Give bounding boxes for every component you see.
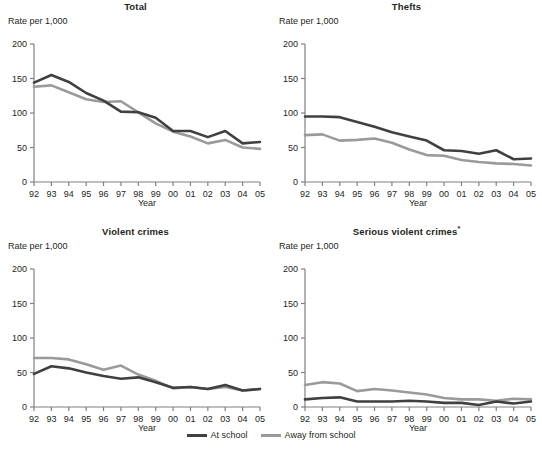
y-tick-label: 100 — [283, 108, 298, 118]
x-axis-label: Year — [34, 198, 260, 208]
series-line-away-from-school — [34, 85, 260, 148]
y-tick-label: 100 — [12, 333, 27, 343]
y-tick-label: 50 — [17, 368, 27, 378]
y-tick-label: 100 — [283, 333, 298, 343]
legend-label-away-from-school: Away from school — [285, 430, 356, 440]
x-axis-label: Year — [305, 198, 531, 208]
y-tick-label: 200 — [12, 39, 27, 49]
legend-label-at-school: At school — [211, 430, 248, 440]
panel-serious-violent-crimes: Serious violent crimes* Rate per 1,000 0… — [271, 225, 542, 447]
plot-area: 0501001502009293949596979899000102030405 — [271, 0, 542, 222]
panel-thefts: Thefts Rate per 1,000 050100150200929394… — [271, 0, 542, 222]
y-tick-label: 150 — [12, 299, 27, 309]
y-tick-label: 0 — [293, 402, 298, 412]
y-tick-label: 150 — [12, 74, 27, 84]
y-tick-label: 50 — [288, 368, 298, 378]
y-tick-label: 0 — [22, 402, 27, 412]
y-tick-label: 200 — [283, 264, 298, 274]
panel-total: Total Rate per 1,000 0501001502009293949… — [0, 0, 271, 222]
legend-item-at-school: At school — [187, 430, 248, 440]
legend-swatch-away-from-school — [261, 434, 281, 437]
legend-item-away-from-school: Away from school — [261, 430, 356, 440]
y-tick-label: 0 — [293, 177, 298, 187]
plot-area: 0501001502009293949596979899000102030405 — [0, 225, 271, 447]
y-tick-label: 150 — [283, 74, 298, 84]
y-tick-label: 50 — [288, 143, 298, 153]
panel-violent-crimes: Violent crimes Rate per 1,000 0501001502… — [0, 225, 271, 447]
y-tick-label: 150 — [283, 299, 298, 309]
y-tick-label: 50 — [17, 143, 27, 153]
plot-area: 0501001502009293949596979899000102030405 — [271, 225, 542, 447]
figure-multi-panel-line-charts: Total Rate per 1,000 0501001502009293949… — [0, 0, 542, 455]
series-line-at-school — [34, 75, 260, 143]
legend-swatch-at-school — [187, 434, 207, 437]
y-tick-label: 0 — [22, 177, 27, 187]
legend: At school Away from school — [0, 430, 542, 440]
y-tick-label: 200 — [12, 264, 27, 274]
plot-area: 0501001502009293949596979899000102030405 — [0, 0, 271, 222]
y-tick-label: 100 — [12, 108, 27, 118]
y-tick-label: 200 — [283, 39, 298, 49]
series-line-at-school — [305, 397, 531, 405]
